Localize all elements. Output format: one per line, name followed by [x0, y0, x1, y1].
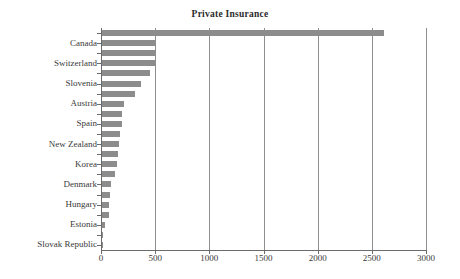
- bar: [102, 111, 122, 117]
- y-tick-label: Slovenia: [66, 79, 98, 88]
- x-tick-label-3000: 3000: [417, 254, 435, 263]
- y-tick-4: [97, 73, 101, 74]
- y-tick-label: Austria: [71, 99, 98, 108]
- bar: [102, 192, 110, 198]
- y-tick-12: [97, 154, 101, 155]
- bar: [102, 50, 156, 56]
- y-tick-label: Switzerland: [54, 59, 97, 68]
- gridline-2000: [318, 28, 319, 250]
- y-tick-label: Denmark: [64, 180, 98, 189]
- y-tick-label: Hungary: [66, 200, 98, 209]
- bar: [102, 202, 109, 208]
- y-tick-5: [97, 84, 101, 85]
- y-axis-labels: CanadaSwitzerlandSloveniaAustriaSpainNew…: [0, 28, 97, 250]
- y-tick-0: [97, 33, 101, 34]
- y-tick-17: [97, 205, 101, 206]
- y-tick-label: Canada: [70, 39, 97, 48]
- y-tick-label: Estonia: [70, 220, 97, 229]
- y-tick-18: [97, 215, 101, 216]
- y-tick-9: [97, 124, 101, 125]
- y-tick-21: [97, 245, 101, 246]
- bar: [102, 70, 150, 76]
- gridline-500: [155, 28, 156, 250]
- bar: [102, 40, 156, 46]
- bar: [102, 151, 118, 157]
- x-tick-label-1000: 1000: [200, 254, 218, 263]
- y-tick-label: Spain: [76, 119, 97, 128]
- y-tick-2: [97, 53, 101, 54]
- y-tick-16: [97, 195, 101, 196]
- bar: [102, 81, 141, 87]
- y-tick-7: [97, 104, 101, 105]
- x-tick-label-1500: 1500: [255, 254, 273, 263]
- y-tick-13: [97, 164, 101, 165]
- x-tick-label-2500: 2500: [363, 254, 381, 263]
- y-tick-11: [97, 144, 101, 145]
- y-tick-label: New Zealand: [49, 140, 97, 149]
- gridline-3000: [426, 28, 427, 250]
- bar: [102, 60, 155, 66]
- y-tick-3: [97, 63, 101, 64]
- y-tick-20: [97, 235, 101, 236]
- gridline-1500: [264, 28, 265, 250]
- y-tick-1: [97, 43, 101, 44]
- gridline-2500: [372, 28, 373, 250]
- bar: [102, 91, 135, 97]
- y-tick-6: [97, 94, 101, 95]
- y-tick-15: [97, 184, 101, 185]
- bar: [102, 242, 103, 248]
- chart-title: Private Insurance: [0, 9, 460, 19]
- y-tick-19: [97, 225, 101, 226]
- x-tick-label-500: 500: [148, 254, 162, 263]
- y-tick-8: [97, 114, 101, 115]
- y-tick-label: Slovak Republic: [37, 240, 97, 249]
- y-tick-10: [97, 134, 101, 135]
- bar: [102, 161, 117, 167]
- bar: [102, 121, 122, 127]
- bar: [102, 131, 120, 137]
- bar: [102, 30, 384, 36]
- bar: [102, 212, 109, 218]
- bar: [102, 171, 115, 177]
- y-tick-label: Korea: [75, 160, 97, 169]
- gridline-1000: [209, 28, 210, 250]
- y-tick-14: [97, 174, 101, 175]
- x-tick-label-2000: 2000: [309, 254, 327, 263]
- bar: [102, 101, 124, 107]
- bar: [102, 232, 103, 238]
- bar: [102, 141, 119, 147]
- plot-area: 050010001500200025003000: [101, 28, 426, 250]
- chart-root: Private Insurance CanadaSwitzerlandSlove…: [0, 0, 460, 279]
- x-tick-label-0: 0: [99, 254, 104, 263]
- bar: [102, 181, 111, 187]
- bar: [102, 222, 105, 228]
